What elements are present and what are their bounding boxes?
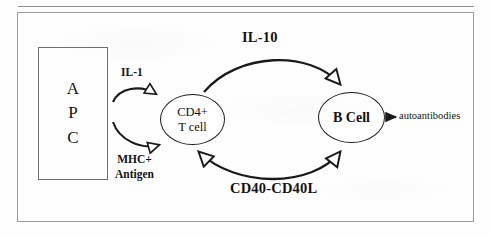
figure-page: · · · · · · · A P C CD4+ T cell B Cell bbox=[0, 0, 490, 237]
label-mhc-line2: Antigen bbox=[115, 167, 154, 182]
horizontal-rule bbox=[18, 6, 474, 7]
label-mhc-line1: MHC+ bbox=[115, 152, 154, 167]
node-apc: A P C bbox=[38, 47, 108, 180]
label-il1: IL-1 bbox=[121, 66, 143, 78]
label-il10: IL-10 bbox=[242, 29, 278, 46]
label-cd40-cd40l: CD40-CD40L bbox=[230, 180, 317, 197]
label-mhc-antigen: MHC+ Antigen bbox=[115, 152, 154, 181]
node-cd4-t-cell: CD4+ T cell bbox=[160, 94, 225, 145]
apc-letter-p: P bbox=[68, 101, 77, 125]
b-cell-label: B Cell bbox=[333, 110, 370, 126]
node-b-cell: B Cell bbox=[318, 92, 385, 143]
label-autoantibodies: autoantibodies bbox=[399, 110, 460, 121]
t-cell-label-line1: CD4+ bbox=[177, 105, 208, 120]
apc-letter-a: A bbox=[67, 77, 79, 101]
t-cell-label-line2: T cell bbox=[178, 120, 207, 135]
apc-letter-c: C bbox=[67, 126, 78, 150]
